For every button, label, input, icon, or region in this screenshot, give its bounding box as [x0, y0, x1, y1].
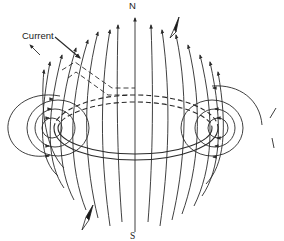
current-label: Current [22, 30, 54, 41]
current-loop [54, 95, 218, 160]
field-lines-left [8, 95, 89, 156]
south-label: S [130, 231, 135, 241]
compass-needle-south [82, 205, 93, 230]
compass-needle-north [170, 17, 179, 38]
field-lines-right [181, 86, 276, 157]
current-arrow [55, 37, 80, 58]
lead-wires [62, 62, 135, 95]
north-label: N [129, 0, 136, 11]
